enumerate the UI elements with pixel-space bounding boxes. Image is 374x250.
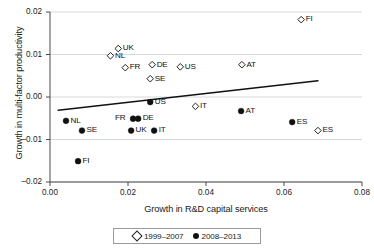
y-tick-label: 0.00 [8, 92, 42, 101]
chart-legend: 1999–2007 2008–2013 [113, 228, 261, 244]
y-tick-label: –0.02 [8, 177, 42, 186]
y-tick-label: –0.01 [8, 135, 42, 144]
point-label-it: IT [159, 125, 166, 134]
x-tick-label: 0.06 [264, 188, 304, 197]
x-tick-label: 0.04 [186, 188, 226, 197]
point-label-it: IT [200, 101, 207, 110]
point-label-fi: FI [83, 156, 90, 165]
point-label-es: ES [297, 117, 308, 126]
point-label-se: SE [86, 125, 97, 134]
y-tick-label: 0.02 [8, 7, 42, 16]
y-tick-label: 0.01 [8, 50, 42, 59]
x-tick-label: 0.02 [108, 188, 148, 197]
legend-item-period-2: 2008–2013 [193, 232, 242, 241]
legend-label-period-2: 2008–2013 [202, 232, 242, 241]
point-label-fi: FI [306, 14, 313, 23]
point-label-nl: NL [115, 51, 125, 60]
point-label-at: AT [246, 60, 255, 69]
open-diamond-icon [131, 230, 142, 241]
point-label-us: US [185, 62, 196, 71]
point-label-fr: FR [130, 62, 141, 71]
legend-label-period-1: 1999–2007 [144, 232, 184, 241]
trend-line [58, 81, 318, 110]
point-label-us: US [155, 97, 166, 106]
axis-ticks [46, 12, 362, 186]
scatter-chart: Growth in multi-factor productivity Grow… [0, 0, 374, 250]
x-axis-title: Growth in R&D capital services [50, 204, 362, 214]
x-tick-label: 0.08 [342, 188, 374, 197]
point-label-at: AT [246, 106, 255, 115]
point-label-de: DE [143, 113, 154, 122]
point-label-de: DE [157, 60, 168, 69]
point-label-es: ES [322, 125, 333, 134]
point-label-nl: NL [70, 116, 80, 125]
point-label-fr: FR [115, 113, 126, 122]
data-markers [63, 16, 321, 164]
x-tick-label: 0.00 [30, 188, 70, 197]
point-label-se: SE [155, 74, 166, 83]
point-label-uk: UK [136, 125, 147, 134]
filled-circle-icon [193, 233, 199, 239]
gridlines [50, 12, 362, 182]
legend-item-period-1: 1999–2007 [133, 232, 184, 241]
